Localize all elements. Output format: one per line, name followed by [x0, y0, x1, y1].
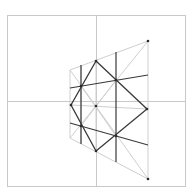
light-line — [71, 105, 147, 109]
point-left — [70, 104, 73, 107]
point-upper-left — [80, 85, 83, 88]
point-top — [95, 60, 98, 63]
trapezoid-polygon — [70, 41, 148, 179]
perspective-square-diagram — [0, 0, 188, 191]
trapezoid-outline — [70, 41, 148, 179]
point-trap-top-right — [147, 40, 150, 43]
point-bottom — [95, 150, 98, 153]
point-trap-bottom-right — [147, 178, 150, 181]
point-lower-left — [80, 125, 83, 128]
point-upper-right — [115, 79, 118, 82]
point-lower-right — [115, 135, 118, 138]
point-center — [95, 105, 98, 108]
light-line — [81, 86, 116, 136]
diagram-canvas — [0, 0, 188, 191]
point-right — [146, 108, 149, 111]
light-line — [81, 80, 116, 126]
